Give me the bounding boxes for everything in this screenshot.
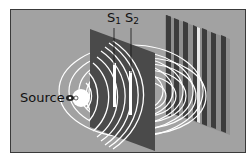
source-label: Source: [20, 91, 65, 104]
fringe-screen: [165, 15, 230, 135]
slit-2-label: S2: [125, 11, 139, 26]
diagram-frame: [10, 9, 246, 153]
double-slit-illustration: [11, 10, 246, 153]
slit-1: [113, 63, 116, 107]
slit-2: [129, 71, 132, 115]
slit-1-label: S1: [107, 11, 121, 26]
